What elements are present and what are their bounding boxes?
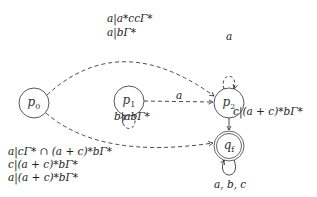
edge-p1-loop-label: b|abΓ* xyxy=(114,110,150,122)
edge-p0-qf-label-1: a|cΓ* ∩ (a + c)*bΓ* xyxy=(8,145,112,157)
state-p0-label: p0 xyxy=(19,95,49,111)
edge-qf-loop-label: a, b, c xyxy=(214,178,246,190)
edge-p2-loop-label: a xyxy=(226,30,232,42)
edge-p0-qf-label-2: c|(a + c)*bΓ* xyxy=(8,158,78,170)
state-qf-label: qf xyxy=(214,138,244,154)
edge-p2-qf-label: c|(a + c)*bΓ* xyxy=(233,105,303,117)
edge-p2-loop xyxy=(223,76,235,89)
edge-p0-p2-label-2: a|bΓ* xyxy=(107,26,136,38)
edge-p1-p2 xyxy=(144,101,213,102)
edge-qf-loop xyxy=(222,160,235,175)
state-p1-label: p1 xyxy=(114,93,144,109)
edge-p0-p2 xyxy=(47,62,214,96)
edge-p0-p2-label-1: a|a*ccΓ* xyxy=(107,12,153,24)
edge-p0-qf-label-3: a|(a + c)*bΓ* xyxy=(8,171,78,183)
edge-p1-p2-label: a xyxy=(176,89,182,101)
